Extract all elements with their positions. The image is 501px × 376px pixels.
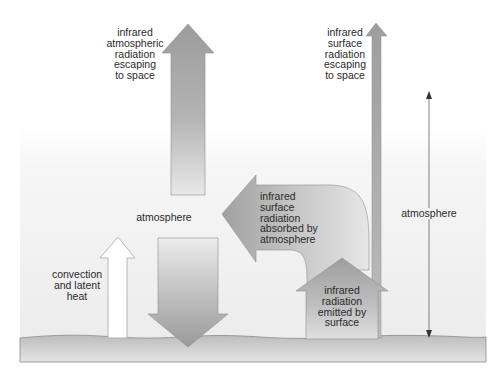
label-atmosphere-scale: atmosphere xyxy=(400,208,458,219)
scale-arrowhead-top xyxy=(426,91,432,99)
greenhouse-diagram xyxy=(0,0,501,376)
label-convection: convection and latent heat xyxy=(48,269,106,301)
label-surface-emission: infrared radiation emitted by surface xyxy=(312,285,372,328)
label-absorbed-by-atmosphere: infrared surface radiation absorbed by a… xyxy=(260,191,330,245)
label-atmospheric-escape: infrared atmospheric radiation escaping … xyxy=(104,27,166,81)
label-surface-escape: infrared surface radiation escaping to s… xyxy=(322,27,368,81)
earth-surface xyxy=(20,335,486,362)
label-atmosphere-center: atmosphere xyxy=(134,212,194,223)
